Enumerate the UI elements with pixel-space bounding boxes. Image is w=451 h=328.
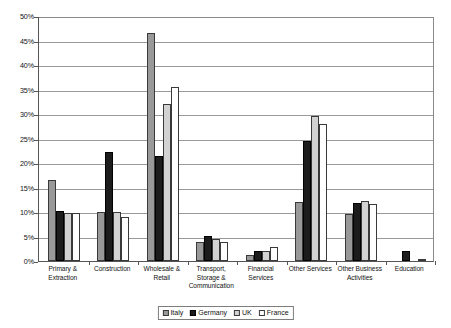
y-axis-tick-label: 25%: [0, 136, 34, 143]
y-axis-tick-label: 5%: [0, 234, 34, 241]
y-axis-tick-mark: [34, 140, 38, 141]
bar: [204, 236, 212, 261]
y-axis-tick-label: 40%: [0, 62, 34, 69]
bar: [171, 87, 179, 261]
y-axis-tick-mark: [34, 91, 38, 92]
y-axis-tick-label: 50%: [0, 13, 34, 20]
y-axis-tick-mark: [34, 42, 38, 43]
y-axis-tick-label: 0%: [0, 258, 34, 265]
bar: [48, 180, 56, 261]
bar: [196, 242, 204, 261]
bar: [311, 116, 319, 261]
bar: [246, 255, 254, 261]
x-axis-category-label-line: Activities: [329, 274, 391, 283]
bar: [361, 201, 369, 261]
bar: [220, 242, 228, 261]
y-axis-tick-label: 20%: [0, 160, 34, 167]
x-axis-category-label-line: Extraction: [32, 274, 94, 283]
y-axis-tick-mark: [34, 115, 38, 116]
legend-item-label: Italy: [170, 308, 183, 317]
y-axis-tick-mark: [34, 17, 38, 18]
bar: [369, 204, 377, 261]
bar: [254, 251, 262, 261]
x-axis-category-label-line: Communication: [181, 282, 243, 291]
y-axis-tick-mark: [34, 164, 38, 165]
legend-item-label: Germany: [198, 308, 227, 317]
bar-group: [39, 17, 89, 261]
y-axis-tick-label: 30%: [0, 111, 34, 118]
bar-group: [237, 17, 287, 261]
plot-area: [38, 17, 434, 262]
y-axis-tick-mark: [34, 213, 38, 214]
x-axis-category-label: Education: [379, 265, 441, 274]
bar: [303, 141, 311, 261]
legend-swatch-icon: [190, 310, 196, 316]
legend-swatch-icon: [234, 310, 240, 316]
bar: [56, 211, 64, 261]
y-axis-tick-mark: [34, 262, 38, 263]
bar: [155, 156, 163, 261]
bar: [353, 203, 361, 261]
bar-group: [287, 17, 337, 261]
bar: [418, 259, 426, 261]
legend-item-label: France: [267, 308, 289, 317]
bar: [147, 33, 155, 261]
y-axis-tick-label: 35%: [0, 87, 34, 94]
y-axis-tick-label: 45%: [0, 38, 34, 45]
bar: [345, 214, 353, 261]
bar-group: [138, 17, 188, 261]
x-axis-category-label-line: Services: [230, 274, 292, 283]
bar: [121, 217, 129, 261]
legend-item: Italy: [162, 308, 183, 317]
bar: [402, 251, 410, 261]
legend-swatch-icon: [162, 310, 168, 316]
legend-swatch-icon: [259, 310, 265, 316]
bar: [319, 124, 327, 261]
bar-group: [188, 17, 238, 261]
bar: [262, 251, 270, 261]
bar-group: [336, 17, 386, 261]
legend-item: UK: [234, 308, 252, 317]
bar: [97, 212, 105, 261]
bar: [72, 213, 80, 261]
legend-item-label: UK: [242, 308, 252, 317]
bar-group: [89, 17, 139, 261]
bar: [105, 152, 113, 261]
bar: [212, 239, 220, 261]
x-axis-category-label-line: Education: [379, 265, 441, 274]
bars-layer: [39, 17, 433, 261]
y-axis-tick-label: 15%: [0, 185, 34, 192]
bar: [295, 202, 303, 261]
bar-chart: 50%45%40%35%30%25%20%15%10%5%0% Primary …: [0, 0, 451, 328]
bar: [64, 213, 72, 261]
chart-legend: ItalyGermanyUKFrance: [157, 306, 293, 320]
bar-group: [386, 17, 436, 261]
y-axis-tick-label: 10%: [0, 209, 34, 216]
y-axis-tick-mark: [34, 66, 38, 67]
bar: [270, 247, 278, 261]
y-axis-tick-mark: [34, 189, 38, 190]
legend-item: Germany: [190, 308, 227, 317]
y-axis-tick-mark: [34, 238, 38, 239]
legend-item: France: [259, 308, 289, 317]
bar: [163, 104, 171, 261]
x-axis-category-labels: Primary &ExtractionConstructionWholesale…: [38, 265, 434, 305]
bar: [113, 212, 121, 261]
